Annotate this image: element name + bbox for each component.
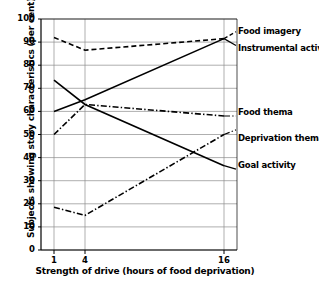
x-tick-label: 1 — [42, 255, 66, 265]
series-label-food-imagery: Food imagery — [238, 26, 301, 36]
series-label-instrumental-activity: Instrumental activity — [238, 43, 319, 53]
series-label-goal-activity: Goal activity — [238, 160, 296, 170]
series-line-goal-activity — [54, 80, 224, 165]
y-tick-label: 90 — [9, 36, 35, 46]
series-line-food-thema — [54, 104, 224, 134]
chart-figure: Subjects showing story characteristics (… — [0, 0, 319, 282]
y-tick-label: 20 — [9, 198, 35, 208]
y-tick-label: 80 — [9, 59, 35, 69]
series-line-deprivation-thema — [54, 135, 224, 216]
x-tick-label: 4 — [73, 255, 97, 265]
gridlines — [41, 19, 237, 250]
x-axis-label: Strength of drive (hours of food depriva… — [20, 266, 270, 276]
y-tick-label: 0 — [9, 244, 35, 254]
y-tick-label: 70 — [9, 82, 35, 92]
y-tick-label: 50 — [9, 129, 35, 139]
y-tick-label: 60 — [9, 105, 35, 115]
series-line-food-imagery — [54, 37, 224, 50]
x-tick-label: 16 — [212, 255, 236, 265]
y-tick-label: 100 — [9, 13, 35, 23]
series-label-deprivation-thema: Deprivation thema — [238, 133, 319, 143]
series-lines — [54, 37, 224, 215]
series-label-food-thema: Food thema — [238, 107, 293, 117]
y-tick-label: 30 — [9, 175, 35, 185]
label-leader-lines — [224, 32, 236, 169]
tick-marks — [38, 19, 224, 254]
y-tick-label: 40 — [9, 152, 35, 162]
y-tick-label: 10 — [9, 221, 35, 231]
